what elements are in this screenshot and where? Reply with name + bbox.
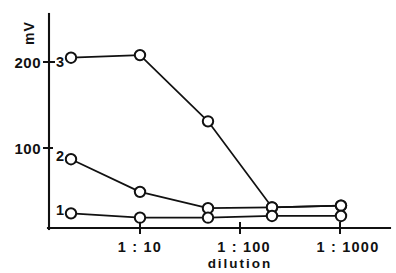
- series-line-2: [71, 159, 341, 208]
- x-tick-label-1-100: 1 : 100: [217, 239, 271, 255]
- series-layer: [66, 50, 346, 223]
- x-axis-title: dilution: [208, 256, 273, 271]
- x-tick-label-1-10: 1 : 10: [118, 239, 162, 255]
- data-point-series-3-0: [66, 53, 76, 63]
- data-point-series-3-1: [135, 50, 145, 60]
- x-tick-label-1-1000: 1 : 1000: [317, 239, 380, 255]
- data-point-series-1-1: [135, 212, 145, 222]
- series-label-3: 3: [56, 54, 64, 70]
- y-tick-label-100: 100: [14, 140, 41, 157]
- series-label-2: 2: [56, 148, 64, 164]
- data-point-series-1-3: [267, 211, 277, 221]
- y-axis-title: mV: [21, 21, 37, 45]
- data-point-series-3-2: [203, 116, 213, 126]
- data-point-series-2-4: [336, 200, 346, 210]
- series-label-1: 1: [56, 202, 64, 218]
- line-chart-plot: 200 100 1 : 10 1 : 100 1 : 1000 mV dilut…: [0, 0, 396, 273]
- data-point-series-1-4: [336, 211, 346, 221]
- series-line-3: [71, 55, 341, 207]
- data-point-series-2-1: [135, 187, 145, 197]
- data-point-series-1-0: [66, 208, 76, 218]
- data-point-series-2-0: [66, 154, 76, 164]
- y-tick-label-200: 200: [14, 54, 41, 71]
- chart-figure: 200 100 1 : 10 1 : 100 1 : 1000 mV dilut…: [0, 0, 396, 273]
- data-point-series-1-2: [203, 212, 213, 222]
